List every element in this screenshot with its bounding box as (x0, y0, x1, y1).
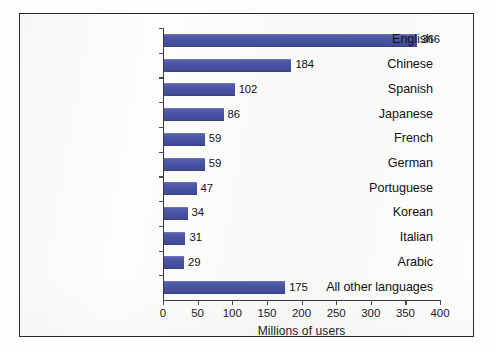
x-axis-tick-label: 0 (160, 307, 166, 319)
y-axis-tick (159, 102, 163, 103)
bar-german (164, 158, 205, 171)
y-axis-tick (159, 226, 163, 227)
bar-value-german: 59 (209, 157, 221, 169)
x-axis-tick (371, 300, 372, 305)
bar-portuguese (164, 182, 197, 195)
category-label-german: German (388, 156, 433, 170)
bar-english (164, 34, 417, 47)
category-label-all-other-languages: All other languages (326, 280, 433, 294)
bar-spanish (164, 83, 235, 96)
x-axis-tick-label: 200 (292, 307, 311, 319)
bar-value-chinese: 184 (295, 58, 314, 70)
x-axis-tick (163, 300, 164, 305)
bar-value-korean: 34 (192, 206, 204, 218)
category-label-japanese: Japanese (379, 107, 433, 121)
x-axis-title: Millions of users (163, 324, 440, 338)
x-axis-tick (336, 300, 337, 305)
x-axis-tick (198, 300, 199, 305)
y-axis-tick (159, 251, 163, 252)
category-label-italian: Italian (400, 230, 433, 244)
bar-chinese (164, 59, 291, 72)
x-axis-tick-label: 400 (431, 307, 450, 319)
y-axis-tick (159, 275, 163, 276)
plot-area: English366Chinese184Spanish102Japanese86… (163, 28, 440, 300)
bar-value-spanish: 102 (239, 83, 258, 95)
x-axis-tick-label: 150 (257, 307, 276, 319)
category-label-spanish: Spanish (388, 82, 433, 96)
bar-value-japanese: 86 (228, 108, 240, 120)
y-axis-tick (159, 28, 163, 29)
bar-japanese (164, 108, 224, 121)
bar-value-italian: 31 (189, 231, 201, 243)
figure: English366Chinese184Spanish102Japanese86… (0, 0, 495, 353)
x-axis-tick (302, 300, 303, 305)
category-label-korean: Korean (393, 205, 433, 219)
x-axis-tick (267, 300, 268, 305)
y-axis-tick (159, 77, 163, 78)
bar-value-arabic: 29 (188, 256, 200, 268)
category-label-portuguese: Portuguese (369, 181, 433, 195)
x-axis-tick (440, 300, 441, 305)
bar-korean (164, 207, 188, 220)
y-axis-tick (159, 127, 163, 128)
bar-value-english: 366 (421, 33, 440, 45)
bar-value-all-other-languages: 175 (289, 281, 308, 293)
category-label-chinese: Chinese (387, 57, 433, 71)
x-axis-tick (232, 300, 233, 305)
bar-value-french: 59 (209, 132, 221, 144)
y-axis-tick (159, 176, 163, 177)
bar-all-other-languages (164, 281, 285, 294)
x-axis-tick-label: 300 (361, 307, 380, 319)
category-label-arabic: Arabic (398, 255, 433, 269)
x-axis-tick-label: 250 (327, 307, 346, 319)
y-axis-tick (159, 152, 163, 153)
x-axis-tick-label: 100 (223, 307, 242, 319)
x-axis-tick-label: 50 (191, 307, 204, 319)
x-axis-tick (405, 300, 406, 305)
bar-arabic (164, 256, 184, 269)
bar-italian (164, 232, 185, 245)
y-axis-tick (159, 53, 163, 54)
y-axis-tick (159, 201, 163, 202)
bar-french (164, 133, 205, 146)
x-axis-tick-label: 350 (396, 307, 415, 319)
bar-value-portuguese: 47 (201, 182, 213, 194)
category-label-french: French (394, 131, 433, 145)
